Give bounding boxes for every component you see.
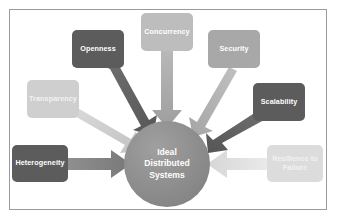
node-scalability[interactable]: Scalability [253,83,305,121]
node-resilience-to-failure-label: Resilience to Failure [272,155,318,172]
node-openness-label: Openness [80,45,116,53]
center-line-3: Systems [149,170,184,180]
center-line-2: Distributed [144,158,189,168]
node-scalability-label: Scalability [261,98,298,106]
node-concurrency-label: Concurrency [144,28,189,36]
center-node-label: Ideal Distributed Systems [144,147,189,182]
arrow-heterogeneity-to-center [68,150,131,178]
node-heterogeneity-label: Heterogeneity [15,159,64,167]
center-line-1: Ideal [157,147,177,157]
arrow-resilience-to-center [207,150,267,178]
diagram-root: Openness Concurrency Security Transparen… [0,0,338,224]
arrow-security-to-center [189,67,237,137]
node-heterogeneity[interactable]: Heterogeneity [12,145,68,182]
node-openness[interactable]: Openness [72,30,124,68]
node-concurrency[interactable]: Concurrency [141,13,193,51]
node-transparency[interactable]: Transparency [27,80,79,118]
node-transparency-label: Transparency [29,95,77,103]
center-node[interactable]: Ideal Distributed Systems [124,121,210,207]
node-security-label: Security [219,45,248,53]
node-resilience-line-2: Failure [283,163,307,172]
node-security[interactable]: Security [208,30,260,68]
node-resilience-to-failure[interactable]: Resilience to Failure [267,145,323,182]
